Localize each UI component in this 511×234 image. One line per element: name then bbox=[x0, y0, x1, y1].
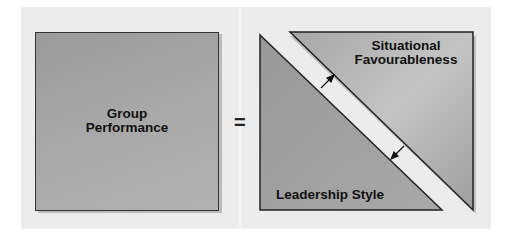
situational-favourableness-label: Situational Favourableness bbox=[342, 39, 470, 67]
leadership-style-label: Leadership Style bbox=[276, 188, 384, 202]
arrow-up-icon bbox=[321, 75, 334, 88]
arrow-down-icon bbox=[391, 146, 404, 159]
leadership-diagram bbox=[0, 0, 511, 234]
